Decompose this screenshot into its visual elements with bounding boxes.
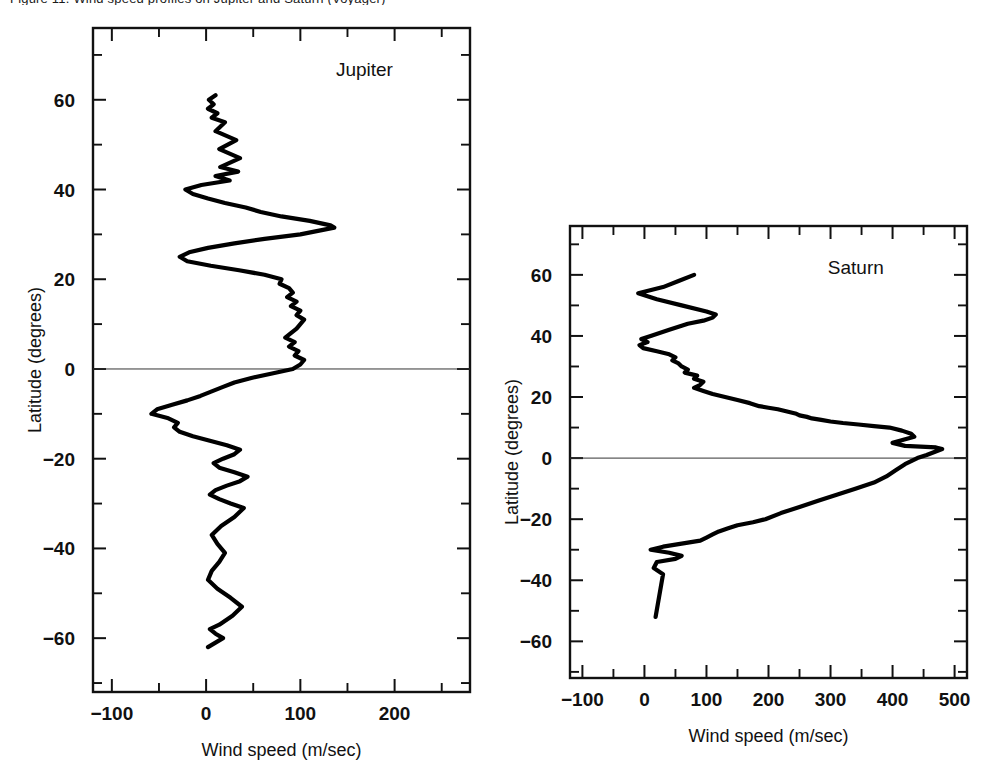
saturn-planet-label: Saturn [828,257,884,278]
saturn-ytick-label: −60 [520,631,552,652]
wind-speed-figure: Figure 11. Wind speed profiles on Jupite… [0,0,1001,772]
jupiter-ytick-label: −20 [43,449,75,470]
jupiter-ytick-label: 0 [64,359,75,380]
saturn-xtick-label: 0 [639,689,650,710]
jupiter-ytick-label: −60 [43,628,75,649]
jupiter-ytick-label: 20 [54,269,75,290]
saturn-ytick-label: −40 [520,570,552,591]
saturn-xtick-label: 100 [691,689,723,710]
jupiter-xtick-label: 200 [379,703,411,724]
jupiter-planet-label: Jupiter [336,59,394,80]
jupiter-xtick-label: 100 [284,703,316,724]
jupiter-axes-frame [93,28,470,692]
saturn-ytick-label: 20 [531,387,552,408]
jupiter-ytick-label: 40 [54,180,75,201]
saturn-xtick-label: 500 [939,689,971,710]
jupiter-xaxis-title: Wind speed (m/sec) [201,740,361,760]
saturn-plot: −60−40−200204060−1000100200300400500Wind… [500,0,1001,772]
saturn-xtick-label: −100 [561,689,604,710]
jupiter-ytick-label: −40 [43,538,75,559]
saturn-panel: −60−40−200204060−1000100200300400500Wind… [500,0,1001,772]
saturn-ytick-label: −20 [520,509,552,530]
saturn-ytick-label: 60 [531,265,552,286]
saturn-yaxis-title: Latitude (degrees) [502,379,522,525]
saturn-xaxis-title: Wind speed (m/sec) [688,726,848,746]
saturn-ytick-label: 0 [541,448,552,469]
jupiter-xtick-label: −100 [90,703,133,724]
saturn-wind-profile-curve [638,275,942,617]
jupiter-xtick-label: 0 [201,703,212,724]
jupiter-yaxis-title: Latitude (degrees) [25,287,45,433]
jupiter-plot: −60−40−200204060−1000100200Wind speed (m… [0,0,500,772]
saturn-xtick-label: 400 [877,689,909,710]
jupiter-wind-profile-curve [151,95,334,647]
jupiter-panel: −60−40−200204060−1000100200Wind speed (m… [0,0,500,772]
saturn-ytick-label: 40 [531,326,552,347]
saturn-xtick-label: 300 [815,689,847,710]
jupiter-ytick-label: 60 [54,90,75,111]
saturn-xtick-label: 200 [753,689,785,710]
saturn-axes-frame [570,226,967,678]
